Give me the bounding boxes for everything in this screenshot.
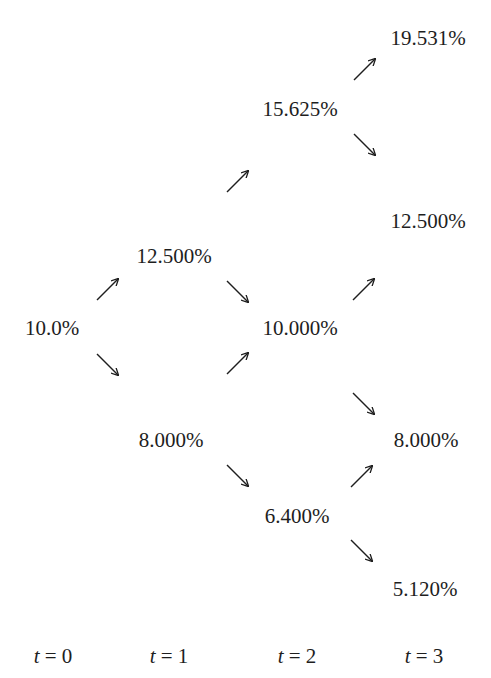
time-eq: = 1 bbox=[156, 644, 189, 668]
arrow-down-icon bbox=[351, 540, 372, 561]
arrow-up-icon bbox=[353, 279, 374, 300]
node-t3-uud: 12.500% bbox=[390, 211, 465, 232]
time-label-2: t = 2 bbox=[278, 646, 317, 667]
arrow-down-icon bbox=[97, 354, 118, 375]
arrow-up-icon bbox=[351, 466, 372, 487]
arrow-up-icon bbox=[354, 59, 375, 80]
node-t3-uuu: 19.531% bbox=[390, 28, 465, 49]
time-eq: = 2 bbox=[284, 644, 317, 668]
node-t3-ddd: 5.120% bbox=[393, 579, 458, 600]
arrow-up-icon bbox=[227, 171, 248, 192]
arrow-up-icon bbox=[97, 279, 118, 300]
arrow-up-icon bbox=[227, 353, 248, 374]
arrow-down-icon bbox=[227, 281, 248, 302]
time-label-3: t = 3 bbox=[405, 646, 444, 667]
node-t1-up: 12.500% bbox=[136, 246, 211, 267]
node-t2-uu: 15.625% bbox=[262, 99, 337, 120]
arrow-down-icon bbox=[227, 465, 248, 486]
time-label-1: t = 1 bbox=[150, 646, 189, 667]
node-t0: 10.0% bbox=[25, 318, 79, 339]
node-t1-down: 8.000% bbox=[139, 430, 204, 451]
node-t2-dd: 6.400% bbox=[265, 506, 330, 527]
time-eq: = 3 bbox=[411, 644, 444, 668]
arrow-down-icon bbox=[353, 393, 374, 414]
node-t3-udd: 8.000% bbox=[394, 430, 459, 451]
node-t2-ud: 10.000% bbox=[262, 318, 337, 339]
arrow-down-icon bbox=[354, 134, 375, 155]
time-label-0: t = 0 bbox=[34, 646, 73, 667]
time-eq: = 0 bbox=[40, 644, 73, 668]
